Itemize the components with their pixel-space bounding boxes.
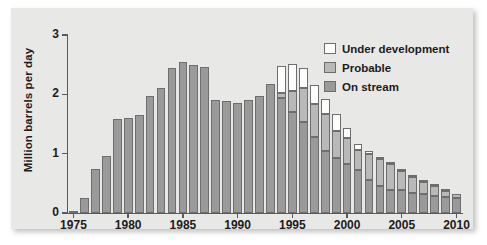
bar (189, 65, 198, 213)
bar-segment (310, 104, 319, 137)
bar (102, 156, 111, 213)
bar-segment (452, 198, 461, 213)
y-tick-label: 1 (39, 147, 59, 159)
x-tick-label: 2000 (327, 219, 367, 232)
bar (343, 128, 352, 213)
legend-label: Under development (342, 43, 449, 55)
bar-segment (277, 66, 286, 93)
bar-segment (277, 93, 286, 98)
y-tick-label-text: 3 (52, 28, 59, 40)
bar (332, 114, 341, 213)
bar (179, 62, 188, 213)
bar-segment (354, 150, 363, 171)
bar-segment (255, 96, 264, 213)
bar-segment (430, 184, 439, 186)
y-tick-label: 0 (39, 206, 59, 218)
bar-segment (386, 164, 395, 190)
bar (299, 68, 308, 213)
bar (266, 84, 275, 213)
bar-segment (189, 65, 198, 213)
legend-swatch-icon (324, 62, 336, 73)
bar-segment (266, 84, 275, 213)
bar-segment (408, 175, 417, 177)
bar-segment (354, 170, 363, 213)
x-tick-label: 1975 (53, 219, 93, 232)
bar-segment (397, 190, 406, 213)
bar (200, 67, 209, 213)
bar-segment (441, 189, 450, 191)
x-tick-label: 1980 (108, 219, 148, 232)
bar-segment (332, 114, 341, 131)
legend-swatch-icon (324, 43, 336, 54)
legend-swatch-icon (324, 81, 336, 92)
legend-item: On stream (324, 78, 474, 95)
y-tick-mark (62, 153, 67, 154)
bar-segment (91, 169, 100, 214)
bar (146, 96, 155, 213)
y-axis-label: Million barrels per day (22, 30, 34, 190)
bar-segment (146, 96, 155, 213)
bar-segment (321, 151, 330, 213)
bar (91, 169, 100, 214)
x-tick-label: 1985 (163, 219, 203, 232)
y-tick-mark (62, 94, 67, 95)
bar-segment (408, 177, 417, 193)
bar-segment (365, 154, 374, 180)
bar-segment (211, 100, 220, 213)
bar (157, 88, 166, 213)
y-tick-label-text: 2 (52, 87, 59, 99)
bar (452, 194, 461, 213)
bar-segment (200, 67, 209, 213)
bar-segment (299, 68, 308, 89)
bar (277, 66, 286, 213)
bar (430, 186, 439, 213)
legend-item: Under development (324, 40, 474, 57)
bar-segment (419, 194, 428, 213)
bar-segment (299, 122, 308, 213)
bar-segment (244, 100, 253, 213)
bar (255, 96, 264, 213)
legend-item: Probable (324, 59, 474, 76)
bar-segment (299, 88, 308, 122)
bar-segment (102, 156, 111, 213)
bar-segment (288, 112, 297, 213)
bar-segment (310, 85, 319, 104)
bar-segment (452, 194, 461, 198)
x-tick-label: 2005 (382, 219, 422, 232)
x-axis-line (67, 213, 463, 214)
x-tick-label: 2010 (437, 219, 477, 232)
bar-segment (430, 186, 439, 195)
bar-segment (376, 186, 385, 213)
bar (124, 118, 133, 213)
bar-segment (419, 180, 428, 182)
bar-segment (157, 88, 166, 213)
bar (222, 101, 231, 213)
bar-segment (332, 158, 341, 213)
bar (386, 163, 395, 213)
bar-segment (179, 62, 188, 213)
bar-segment (80, 198, 89, 213)
bar (376, 157, 385, 213)
bar-segment (343, 138, 352, 165)
bar (135, 115, 144, 213)
y-tick-label-text: 0 (52, 206, 59, 218)
bar (168, 68, 177, 213)
bar-segment (376, 159, 385, 186)
bar-segment (408, 193, 417, 213)
bar (354, 144, 363, 213)
bar-segment (277, 98, 286, 213)
bar-segment (168, 68, 177, 213)
bar (80, 198, 89, 213)
chart-legend: Under developmentProbableOn stream (324, 40, 474, 97)
bar-segment (332, 131, 341, 158)
bar-segment (430, 196, 439, 213)
bar-segment (343, 164, 352, 213)
legend-label: Probable (342, 62, 391, 74)
y-tick-label-text: 1 (52, 147, 59, 159)
bar (244, 100, 253, 213)
x-tick-label: 1995 (272, 219, 312, 232)
bar-segment (135, 115, 144, 213)
bar-segment (441, 191, 450, 197)
bar-segment (386, 162, 395, 164)
y-tick-mark (62, 34, 67, 35)
